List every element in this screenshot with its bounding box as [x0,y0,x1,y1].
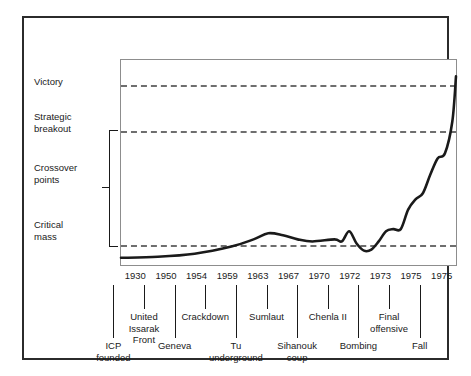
x-tick-label: 1975 [400,270,421,281]
y-label-critical-mass: Critical mass [34,219,63,243]
event-label: Sumlaut [249,311,284,323]
figure-frame: Victory Strategic breakout Crossover poi… [22,16,449,360]
y-label-crossover-points: Crossover points [34,162,77,186]
x-tick-label: 1954 [186,270,207,281]
event-label: ICP founded [96,340,130,363]
chart-figure: Victory Strategic breakout Crossover poi… [0,0,471,376]
event-leader-line [144,285,145,309]
x-tick-label: 1950 [155,270,176,281]
event-label: Final offensive [370,311,408,334]
event-leader-line [297,285,298,338]
event-label: Geneva [158,340,191,352]
event-label: Crackdown [181,311,229,323]
event-leader-line [267,285,268,309]
x-tick-label: 1972 [339,270,360,281]
x-tick-label: 1959 [217,270,238,281]
event-leader-line [420,285,421,338]
event-label: United Issarak Front [129,311,160,346]
x-tick-label: 1970 [309,270,330,281]
plot-area [120,59,457,266]
x-tick-label: 1975 [431,270,452,281]
event-leader-line [175,285,176,338]
event-leader-line [113,285,114,338]
event-leader-line [358,285,359,338]
y-label-victory: Victory [34,76,63,88]
x-tick-label: 1930 [125,270,146,281]
x-tick-label: 1967 [278,270,299,281]
event-leader-line [389,285,390,309]
event-leader-line [328,285,329,309]
event-label: Bombing [340,340,378,352]
event-label: Tu underground [209,340,263,363]
event-label: Fall [412,340,427,352]
x-tick-label: 1963 [247,270,268,281]
crossover-bracket [109,130,118,247]
x-axis: 1930195019541959196319671970197219731975… [120,270,457,284]
event-label: Sihanouk coup [277,340,317,363]
event-label: Chenla II [309,311,347,323]
crossover-bracket-tick [102,187,110,188]
event-leader-line [236,285,237,338]
x-tick-label: 1973 [370,270,391,281]
event-leader-line [205,285,206,309]
series-line-communist-strength [121,60,456,265]
y-label-strategic-breakout: Strategic breakout [34,111,72,135]
